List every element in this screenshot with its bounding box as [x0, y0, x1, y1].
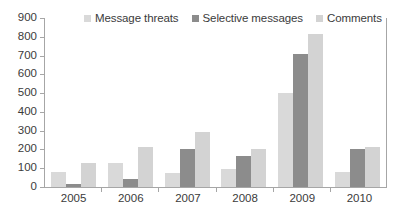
- x-axis-label-2005: 2005: [45, 192, 102, 204]
- bar-2009-series-1: [278, 93, 293, 187]
- y-tick-mark: [40, 93, 44, 94]
- bar-group-2009: [272, 18, 329, 187]
- y-tick-mark: [40, 18, 44, 19]
- bar-2007-series-3: [195, 132, 210, 187]
- y-axis-label: 100: [18, 162, 37, 174]
- y-tick-mark: [40, 37, 44, 38]
- bar-group-2005: [45, 18, 102, 187]
- bar-group-2008: [215, 18, 272, 187]
- y-axis-label: 700: [18, 50, 37, 62]
- y-axis-label: 0: [31, 181, 37, 193]
- y-tick-mark: [40, 74, 44, 75]
- bar-2010-series-2: [350, 149, 365, 187]
- bar-2010-series-3: [365, 147, 380, 187]
- bar-2006-series-3: [138, 147, 153, 187]
- plot-right-border: [386, 18, 387, 188]
- bar-2005-series-1: [51, 172, 66, 187]
- y-axis-label: 400: [18, 106, 37, 118]
- y-tick-mark: [40, 112, 44, 113]
- bar-group-2006: [102, 18, 159, 187]
- bar-2006-series-2: [123, 179, 138, 187]
- plot-area: 0100200300400500600700800900: [44, 18, 387, 188]
- bar-chart: Message threats Selective messages Comme…: [0, 0, 408, 218]
- bar-2007-series-1: [165, 173, 180, 187]
- bar-2008-series-3: [251, 149, 266, 187]
- bar-2005-series-2: [66, 184, 81, 187]
- x-axis-label-2007: 2007: [159, 192, 216, 204]
- y-axis-label: 800: [18, 31, 37, 43]
- bar-2007-series-2: [180, 149, 195, 187]
- y-tick-mark: [40, 149, 44, 150]
- bar-2010-series-1: [335, 172, 350, 187]
- bar-2009-series-2: [293, 54, 308, 187]
- x-axis-label-2009: 2009: [274, 192, 331, 204]
- bar-groups: [45, 18, 386, 187]
- bar-2006-series-1: [108, 163, 123, 187]
- y-tick-mark: [40, 187, 44, 188]
- bar-2008-series-1: [221, 169, 236, 187]
- bar-group-2010: [329, 18, 386, 187]
- bar-2009-series-3: [308, 34, 323, 187]
- y-axis-label: 900: [18, 12, 37, 24]
- x-axis-labels: 200520062007200820092010: [45, 192, 388, 204]
- x-axis-label-2010: 2010: [331, 192, 388, 204]
- bar-group-2007: [159, 18, 216, 187]
- y-tick-mark: [40, 168, 44, 169]
- y-tick-mark: [40, 56, 44, 57]
- y-axis-label: 200: [18, 144, 37, 156]
- y-axis-label: 300: [18, 125, 37, 137]
- y-axis-label: 600: [18, 69, 37, 81]
- y-tick-mark: [40, 131, 44, 132]
- y-axis-tick-0: 0: [44, 187, 45, 188]
- bar-2005-series-3: [81, 163, 96, 187]
- x-axis-label-2008: 2008: [217, 192, 274, 204]
- y-axis-label: 500: [18, 87, 37, 99]
- bar-2008-series-2: [236, 156, 251, 187]
- x-axis-label-2006: 2006: [102, 192, 159, 204]
